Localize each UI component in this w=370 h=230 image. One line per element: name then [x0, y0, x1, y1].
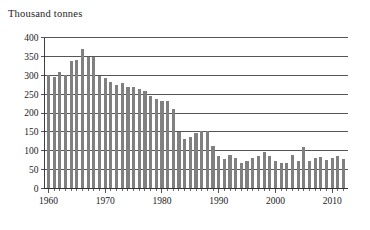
bar-1990: [217, 156, 220, 188]
bar-1998: [263, 152, 266, 189]
bar-2006: [308, 161, 311, 189]
x-tick-label-1970: 1970: [96, 196, 115, 206]
bar-1985: [189, 137, 192, 188]
y-tick-label-300: 300: [24, 71, 39, 81]
y-axis-ticks: 050100150200250300350400: [24, 33, 44, 194]
bar-2002: [285, 163, 288, 189]
bar-1989: [211, 146, 214, 189]
y-tick-label-200: 200: [24, 108, 39, 118]
bar-1974: [126, 87, 129, 188]
bar-1967: [87, 57, 90, 188]
bar-1961: [53, 77, 56, 189]
y-tick-label-400: 400: [24, 33, 39, 43]
bar-1966: [81, 49, 84, 189]
bar-1972: [115, 85, 118, 188]
bar-1964: [70, 61, 73, 189]
bar-1976: [138, 89, 141, 188]
chart-container: Thousand tonnes 050100150200250300350400…: [0, 0, 370, 230]
bar-2000: [274, 161, 277, 189]
bar-1982: [172, 109, 175, 188]
bar-1980: [160, 101, 163, 189]
bar-1960: [47, 75, 50, 188]
bar-1996: [251, 158, 254, 189]
bar-1997: [257, 156, 260, 189]
bars-series: [47, 49, 345, 189]
y-tick-label-0: 0: [34, 184, 39, 194]
bar-1999: [268, 156, 271, 188]
bar-2003: [291, 155, 294, 188]
bar-2001: [280, 163, 283, 188]
bar-1981: [166, 101, 169, 189]
bar-1986: [194, 133, 197, 189]
bar-2012: [342, 159, 345, 188]
bar-1984: [183, 139, 186, 188]
bar-1962: [58, 72, 61, 188]
y-tick-label-150: 150: [24, 127, 39, 137]
bar-1983: [177, 132, 180, 189]
bar-1992: [228, 155, 231, 188]
y-tick-label-350: 350: [24, 52, 39, 62]
bar-2009: [325, 160, 328, 188]
bar-2005: [302, 147, 305, 189]
bar-1979: [155, 99, 158, 188]
x-tick-label-2010: 2010: [323, 196, 342, 206]
bar-1965: [75, 60, 78, 189]
bar-1993: [234, 158, 237, 189]
x-tick-label-1960: 1960: [39, 196, 58, 206]
bar-1970: [104, 78, 107, 189]
x-tick-label-1980: 1980: [152, 196, 171, 206]
bar-1988: [206, 131, 209, 188]
bar-2008: [319, 157, 322, 188]
y-tick-label-100: 100: [24, 146, 39, 156]
y-tick-label-50: 50: [29, 165, 39, 175]
bar-1975: [132, 87, 135, 189]
bar-1973: [121, 83, 124, 189]
bar-2011: [336, 156, 339, 188]
bar-2007: [314, 158, 317, 188]
x-tick-label-1990: 1990: [209, 196, 228, 206]
bar-1969: [98, 76, 101, 189]
bar-1971: [109, 82, 112, 188]
bar-1968: [92, 57, 95, 188]
bar-1994: [240, 163, 243, 189]
bar-1977: [143, 91, 146, 189]
x-axis-ticks: 196019701980199020002010: [39, 189, 344, 206]
y-tick-label-250: 250: [24, 90, 39, 100]
bar-1987: [200, 131, 203, 188]
bar-1978: [149, 96, 152, 188]
bar-1995: [245, 161, 248, 188]
bar-2010: [331, 158, 334, 189]
bar-chart-plot: 050100150200250300350400 196019701980199…: [0, 0, 370, 230]
bar-1963: [64, 75, 67, 189]
x-tick-label-2000: 2000: [266, 196, 285, 206]
bar-1991: [223, 159, 226, 189]
bar-2004: [297, 161, 300, 189]
